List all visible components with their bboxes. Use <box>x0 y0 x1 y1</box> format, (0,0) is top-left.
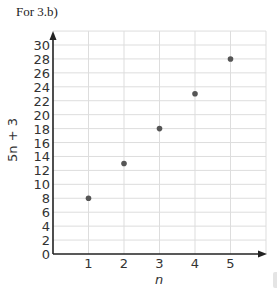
grid-lines <box>53 31 266 254</box>
x-tick-label: 5 <box>226 256 234 271</box>
y-tick-label: 8 <box>42 191 50 206</box>
x-tick-label: 4 <box>191 256 199 271</box>
x-tick-label: 3 <box>155 256 163 271</box>
y-tick-label: 28 <box>33 52 50 67</box>
y-tick-label: 20 <box>33 108 50 123</box>
x-tick-label: 2 <box>120 256 128 271</box>
y-tick-label: 4 <box>42 219 50 234</box>
x-axis-label: n <box>155 272 163 287</box>
y-tick-labels: 024681012141618202224262830 <box>33 38 50 262</box>
y-tick-label: 10 <box>33 177 50 192</box>
y-axis-arrow-icon <box>50 31 57 40</box>
y-tick-label: 18 <box>33 122 50 137</box>
data-point <box>121 161 127 167</box>
y-tick-label: 6 <box>42 205 50 220</box>
scatter-chart: 024681012141618202224262830 12345 n 5n +… <box>0 0 277 291</box>
y-axis-label: 5n + 3 <box>5 118 20 162</box>
y-tick-label: 26 <box>33 66 50 81</box>
y-tick-label: 22 <box>33 94 50 109</box>
axes <box>50 31 268 258</box>
y-tick-label: 24 <box>33 80 50 95</box>
y-tick-label: 30 <box>33 38 50 53</box>
data-point <box>157 126 163 132</box>
y-tick-label: 0 <box>42 247 50 262</box>
data-point <box>228 56 234 62</box>
y-tick-label: 12 <box>33 163 50 178</box>
data-point <box>192 91 198 97</box>
cropped-edge-shape <box>273 272 277 288</box>
data-point <box>86 195 92 201</box>
y-tick-label: 16 <box>33 136 50 151</box>
x-tick-label: 1 <box>84 256 92 271</box>
x-tick-labels: 12345 <box>84 256 234 271</box>
y-tick-label: 14 <box>33 149 50 164</box>
y-tick-label: 2 <box>42 233 50 248</box>
